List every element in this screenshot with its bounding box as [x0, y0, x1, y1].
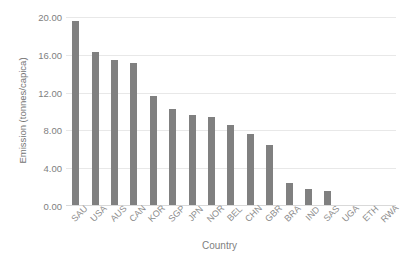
bar: [150, 96, 157, 206]
bar-slot: [377, 17, 396, 206]
y-tick-label: 0.00: [18, 201, 62, 212]
x-axis-title: Country: [0, 240, 403, 251]
bar: [247, 134, 254, 206]
x-axis-title-text: Country: [202, 240, 237, 251]
bar-slot: [85, 17, 104, 206]
bar-chart: Emission (tonnes/capica) 20.0016.0012.00…: [0, 0, 403, 266]
bar: [208, 117, 215, 206]
plot-area: [66, 17, 396, 206]
bar-slot: [144, 17, 163, 206]
y-tick-label: 4.00: [18, 163, 62, 174]
bar-slot: [202, 17, 221, 206]
bar: [227, 125, 234, 206]
y-tick-label: 12.00: [18, 87, 62, 98]
bar-slot: [66, 17, 85, 206]
bar-slot: [279, 17, 298, 206]
bar: [189, 115, 196, 206]
bar-slot: [221, 17, 240, 206]
bar-slot: [338, 17, 357, 206]
bar-slot: [124, 17, 143, 206]
bar: [324, 191, 331, 206]
bar-slot: [318, 17, 337, 206]
bar: [72, 21, 79, 206]
bar: [130, 63, 137, 206]
bar-slot: [163, 17, 182, 206]
bar-slot: [182, 17, 201, 206]
bar: [305, 189, 312, 206]
bar: [286, 183, 293, 206]
y-tick-label: 20.00: [18, 12, 62, 23]
bar-series: [66, 17, 396, 206]
bar-slot: [299, 17, 318, 206]
bar-slot: [241, 17, 260, 206]
bar: [92, 52, 99, 206]
y-tick-label: 16.00: [18, 49, 62, 60]
bar: [266, 145, 273, 206]
y-axis-tick-labels: 20.0016.0012.008.004.000.00: [18, 0, 62, 266]
bar: [169, 109, 176, 206]
bar-slot: [260, 17, 279, 206]
x-axis-line: [66, 205, 396, 206]
bar: [111, 60, 118, 206]
bar-slot: [357, 17, 376, 206]
bar-slot: [105, 17, 124, 206]
y-tick-label: 8.00: [18, 125, 62, 136]
